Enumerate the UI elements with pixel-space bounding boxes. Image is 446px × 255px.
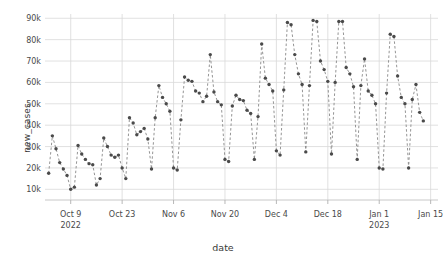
y-axis-tick-label: 10k <box>26 185 41 194</box>
data-point-marker <box>378 166 381 169</box>
data-point-marker <box>62 167 65 170</box>
data-point-marker <box>411 98 414 101</box>
data-point-marker <box>374 102 377 105</box>
data-point-marker <box>249 112 252 115</box>
data-point-marker <box>414 83 417 86</box>
data-point-marker <box>348 72 351 75</box>
data-point-marker <box>205 95 208 98</box>
data-point-marker <box>54 147 57 150</box>
data-point-marker <box>168 110 171 113</box>
data-point-marker <box>179 118 182 121</box>
x-axis-tick-label: Jan 12023 <box>369 209 389 231</box>
data-point-marker <box>315 20 318 23</box>
data-point-marker <box>106 145 109 148</box>
data-point-marker <box>278 153 281 156</box>
y-axis-tick-label: 20k <box>26 163 41 172</box>
data-point-marker <box>286 21 289 24</box>
x-axis-tick-label: Nov 6 <box>162 209 185 220</box>
data-point-marker <box>120 166 123 169</box>
data-point-marker <box>403 102 406 105</box>
data-point-marker <box>319 59 322 62</box>
data-point-marker <box>223 158 226 161</box>
data-point-marker <box>212 90 215 93</box>
data-point-marker <box>359 84 362 87</box>
data-point-marker <box>385 91 388 94</box>
data-point-marker <box>352 85 355 88</box>
data-point-marker <box>300 83 303 86</box>
data-point-marker <box>135 133 138 136</box>
data-point-marker <box>304 150 307 153</box>
x-axis-tick-label: Jan 15 <box>418 209 443 220</box>
data-point-marker <box>153 116 156 119</box>
data-point-marker <box>392 35 395 38</box>
data-point-marker <box>293 53 296 56</box>
data-point-marker <box>341 20 344 23</box>
data-point-marker <box>227 160 230 163</box>
y-axis-tick-label: 60k <box>26 78 41 87</box>
x-axis-tick-label: Oct 23 <box>109 209 136 220</box>
data-point-marker <box>176 168 179 171</box>
data-point-marker <box>308 84 311 87</box>
data-point-marker <box>220 103 223 106</box>
data-point-marker <box>131 121 134 124</box>
data-point-marker <box>297 72 300 75</box>
data-point-marker <box>333 81 336 84</box>
data-point-marker <box>194 89 197 92</box>
data-point-marker <box>400 96 403 99</box>
data-point-marker <box>253 158 256 161</box>
data-point-marker <box>209 53 212 56</box>
data-point-marker <box>128 116 131 119</box>
data-point-marker <box>282 88 285 91</box>
data-point-marker <box>157 84 160 87</box>
data-point-marker <box>260 42 263 45</box>
y-axis-tick-label: 80k <box>26 35 41 44</box>
data-point-marker <box>98 177 101 180</box>
data-point-marker <box>238 98 241 101</box>
data-point-marker <box>311 19 314 22</box>
data-point-marker <box>422 119 425 122</box>
data-point-marker <box>363 57 366 60</box>
data-point-marker <box>289 23 292 26</box>
x-axis-tick-label: Oct 92022 <box>60 209 81 231</box>
data-point-marker <box>344 66 347 69</box>
data-point-marker <box>87 162 90 165</box>
data-point-marker <box>231 104 234 107</box>
data-point-marker <box>389 33 392 36</box>
data-point-marker <box>65 174 68 177</box>
data-point-marker <box>381 167 384 170</box>
data-point-marker <box>275 149 278 152</box>
data-point-marker <box>102 136 105 139</box>
data-point-marker <box>69 188 72 191</box>
data-point-marker <box>183 75 186 78</box>
y-axis-tick-label: 30k <box>26 142 41 151</box>
y-axis-tick-label: 70k <box>26 57 41 66</box>
data-point-marker <box>172 166 175 169</box>
data-point-marker <box>356 158 359 161</box>
data-point-marker <box>117 153 120 156</box>
data-point-marker <box>216 100 219 103</box>
data-point-marker <box>139 130 142 133</box>
x-axis-tick-labels: Oct 92022Oct 23Nov 6Nov 20Dec 4Dec 18Jan… <box>0 201 446 231</box>
data-point-marker <box>187 79 190 82</box>
data-point-marker <box>73 185 76 188</box>
data-point-marker <box>76 144 79 147</box>
data-point-marker <box>109 153 112 156</box>
data-point-marker <box>161 96 164 99</box>
data-point-marker <box>80 152 83 155</box>
data-point-marker <box>165 102 168 105</box>
data-point-marker <box>150 167 153 170</box>
y-axis-tick-label: 40k <box>26 121 41 130</box>
data-point-marker <box>264 76 267 79</box>
data-point-marker <box>267 83 270 86</box>
data-point-marker <box>242 99 245 102</box>
data-point-marker <box>58 161 61 164</box>
data-point-marker <box>198 91 201 94</box>
data-point-marker <box>418 111 421 114</box>
x-axis-tick-label: Dec 18 <box>314 209 342 220</box>
data-point-marker <box>326 80 329 83</box>
data-series-line <box>49 20 424 189</box>
data-point-marker <box>396 74 399 77</box>
data-point-marker <box>95 183 98 186</box>
x-axis-tick-label: Dec 4 <box>265 209 288 220</box>
data-point-marker <box>47 172 50 175</box>
